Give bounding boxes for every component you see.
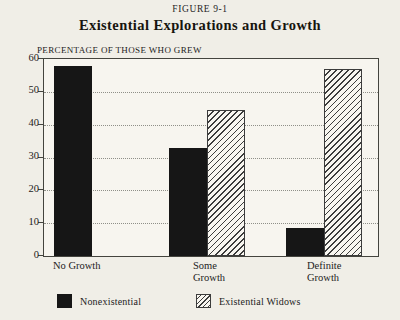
bar-existential-widows-2 [324,69,362,256]
figure-label: FIGURE 9-1 [0,4,400,14]
figure-title: Existential Explorations and Growth [0,17,400,34]
legend-label-1: Existential Widows [219,296,301,307]
y-tick-label-30: 30 [6,150,39,161]
y-tick-label-60: 60 [6,52,39,63]
bar-nonexistential-1 [169,148,207,256]
legend-label-0: Nonexistential [80,296,141,307]
plot-area [43,58,379,257]
category-label-1: Some Growth [193,260,241,284]
y-axis-caption: PERCENTAGE OF THOSE WHO GREW [37,45,202,55]
bar-existential-widows-1 [207,110,245,256]
y-tick-label-50: 50 [6,84,39,95]
bar-nonexistential-0 [54,66,92,256]
legend-item-0: Nonexistential [57,293,141,309]
category-label-2: Definite Growth [307,260,363,284]
y-tick-label-40: 40 [6,117,39,128]
y-tick-label-0: 0 [6,249,39,260]
legend-swatch-solid [57,294,72,308]
category-label-0: No Growth [53,260,143,272]
legend-swatch-hatch [196,294,211,308]
y-tick-label-20: 20 [6,183,39,194]
legend-item-1: Existential Widows [196,293,301,309]
bar-nonexistential-2 [286,228,324,256]
y-tick-label-10: 10 [6,216,39,227]
